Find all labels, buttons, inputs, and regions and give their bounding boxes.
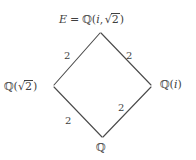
- paren-close-top: ): [120, 13, 124, 26]
- edge-degree-label-bottom-left: 2: [65, 116, 71, 126]
- edge-line-bottom-to-right: [103, 87, 151, 137]
- radical-top: √2: [105, 13, 120, 25]
- comma-top: ,: [100, 13, 104, 26]
- symbol-rationals-top: ℚ: [82, 13, 92, 26]
- edge-degree-label-top-left: 2: [64, 51, 70, 61]
- symbol-rationals-right: ℚ: [160, 78, 170, 91]
- node-label-top-field: E=ℚ(i, √2): [59, 13, 124, 25]
- radicand-top: 2: [111, 13, 120, 25]
- symbol-rationals-left: ℚ: [4, 80, 14, 93]
- edge-line-left-to-top: [54, 33, 100, 85]
- radicand-left: 2: [24, 80, 33, 92]
- symbol-equals: =: [70, 13, 79, 26]
- paren-close-left: ): [33, 80, 37, 93]
- symbol-E: E: [59, 13, 67, 26]
- paren-close-right: ): [177, 78, 181, 91]
- edge-line-bottom-to-left: [54, 87, 102, 137]
- node-label-right-field: ℚ(i): [160, 79, 182, 90]
- edge-degree-label-top-right: 2: [126, 51, 132, 61]
- radical-left: √2: [18, 80, 33, 92]
- node-label-base-field: ℚ: [96, 142, 106, 153]
- field-extension-lattice-diagram: E=ℚ(i, √2) ℚ(√2) ℚ(i) ℚ 2 2 2 2: [0, 0, 196, 160]
- symbol-rationals-bottom: ℚ: [96, 141, 106, 154]
- edge-degree-label-bottom-right: 2: [118, 103, 124, 113]
- node-label-left-field: ℚ(√2): [4, 80, 37, 92]
